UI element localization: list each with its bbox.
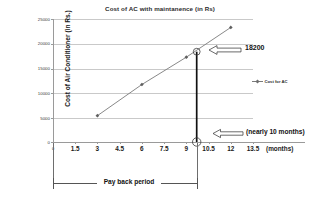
series-markers — [96, 26, 233, 118]
legend-marker-icon — [252, 79, 263, 84]
x-tick-label-9: 9 — [176, 145, 196, 153]
x-tick-label-6: 6 — [132, 145, 152, 153]
y-tick-label-5000: 5000 — [29, 116, 50, 121]
x-tick-label-12: 12 — [221, 145, 241, 153]
annotation-label-nearly-10-months: (nearly 10 months) — [246, 128, 305, 135]
series-layer — [53, 19, 253, 143]
annotation-label-18200: 18200 — [245, 44, 264, 51]
x-tick-label-3: 3 — [87, 145, 107, 153]
annotation-arrow-nearly-10-months — [212, 128, 244, 139]
y-tick-label-20000: 20000 — [29, 41, 50, 46]
chart-title: Cost of AC with maintanence (in Rs) — [60, 5, 260, 12]
plot-area: 25000 20000 15000 10000 5000 0 Cost of A… — [53, 19, 253, 143]
y-tick-label-10000: 10000 — [29, 91, 50, 96]
payback-bracket: Pay back period — [53, 178, 205, 190]
x-axis-units-label: (months) — [266, 145, 293, 152]
x-tick-label-4.5: 4.5 — [110, 145, 130, 153]
y-tick-label-25000: 25000 — [29, 17, 50, 22]
chart-figure: Cost of AC with maintanence (in Rs) 2500… — [0, 0, 317, 206]
x-tick-label-7.5: 7.5 — [154, 145, 174, 153]
y-tick-label-15000: 15000 — [29, 66, 50, 71]
legend-label-cost-for-ac: Cost for AC — [265, 79, 288, 84]
annotation-arrow-18200 — [208, 44, 242, 56]
y-tick-label-0: 0 — [29, 140, 50, 145]
payback-bracket-line-left — [53, 183, 97, 184]
x-tick-mark — [253, 142, 254, 144]
payback-bracket-label: Pay back period — [98, 178, 160, 185]
series-line-cost-for-ac — [97, 27, 230, 115]
payback-bracket-line-right — [161, 183, 198, 184]
x-tick-label-10.5: 10.5 — [199, 145, 219, 153]
x-tick-label-13.5: 13.5 — [243, 145, 263, 153]
x-tick-label-1.5: 1.5 — [65, 145, 85, 153]
chart-legend: Cost for AC — [252, 79, 288, 84]
